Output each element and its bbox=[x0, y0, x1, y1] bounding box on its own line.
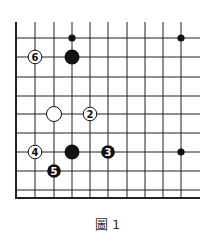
black-stone bbox=[65, 145, 80, 160]
move-number-label: 4 bbox=[32, 147, 39, 158]
black-stone bbox=[177, 34, 184, 41]
move-number-label: 2 bbox=[87, 109, 94, 120]
go-board-diagram: 62435 bbox=[0, 0, 215, 242]
black-stone bbox=[177, 148, 184, 155]
black-stone bbox=[65, 50, 80, 65]
move-number-label: 3 bbox=[105, 147, 112, 158]
white-stone bbox=[47, 107, 62, 122]
move-number-label: 6 bbox=[32, 52, 39, 63]
black-stone bbox=[68, 34, 75, 41]
figure-caption: 圖 1 bbox=[0, 214, 215, 233]
move-number-label: 5 bbox=[51, 166, 58, 177]
